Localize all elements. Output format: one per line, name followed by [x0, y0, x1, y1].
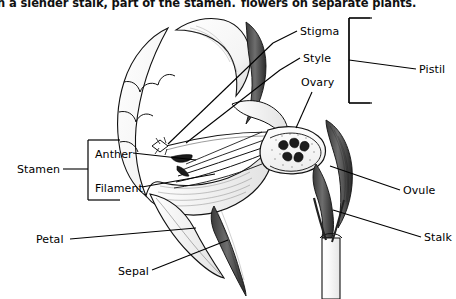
- receptacle: [313, 164, 334, 238]
- flower-anatomy-illustration: [0, 0, 456, 299]
- leader-stalk: [333, 210, 421, 237]
- leader-style: [280, 58, 300, 70]
- anther-secondary: [177, 166, 189, 176]
- label-anther: Anther: [95, 148, 133, 161]
- stigma-tip: [152, 137, 168, 155]
- label-stamen: Stamen: [17, 163, 60, 176]
- label-style: Style: [303, 52, 331, 65]
- label-filament: Filament: [95, 182, 143, 195]
- label-ovary: Ovary: [301, 76, 334, 89]
- tepal-upper: [176, 18, 250, 96]
- leader-pistil: [349, 60, 416, 69]
- label-pistil: Pistil: [419, 63, 445, 76]
- leader-ovary: [296, 92, 312, 128]
- figure-page: n a slender stalk, part of the stamen. f…: [0, 0, 456, 299]
- sepal-lower-dark: [211, 206, 246, 296]
- label-stigma: Stigma: [300, 25, 339, 38]
- label-ovule: Ovule: [403, 184, 435, 197]
- style-line-shadow: [166, 136, 268, 150]
- stalk-body: [322, 238, 340, 299]
- label-stalk: Stalk: [424, 231, 452, 244]
- label-petal: Petal: [36, 233, 64, 246]
- leader-stigma: [273, 31, 297, 43]
- label-sepal: Sepal: [118, 265, 149, 278]
